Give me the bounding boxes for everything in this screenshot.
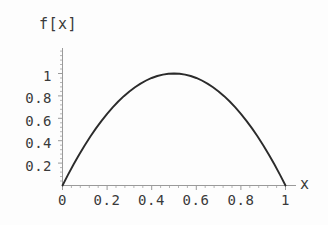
y-tick-label-2: 0.6 (10, 114, 52, 128)
y-tick-label-4: 1 (10, 69, 52, 83)
x-tick-label-3: 0.6 (176, 193, 216, 207)
x-tick-label-5: 1 (266, 193, 306, 207)
x-tick-label-2: 0.4 (132, 193, 172, 207)
y-tick-label-3: 0.8 (10, 91, 52, 105)
y-axis-minor-ticks (60, 51, 62, 181)
x-tick-label-4: 0.8 (221, 193, 261, 207)
y-tick-label-0: 0.2 (10, 159, 52, 173)
y-axis-label: f[x] (39, 17, 77, 32)
y-tick-label-1: 0.4 (10, 136, 52, 150)
function-curve (63, 74, 286, 186)
x-tick-label-1: 0.2 (87, 193, 127, 207)
x-axis-label: x (300, 177, 310, 192)
plot-screenshot: f[x] x 0.2 0.4 0.6 0.8 1 0 0.2 0.4 0.6 0… (0, 0, 328, 225)
x-tick-label-0: 0 (43, 193, 83, 207)
x-axis-minor-ticks (71, 186, 276, 188)
x-axis-major-ticks (63, 186, 286, 190)
